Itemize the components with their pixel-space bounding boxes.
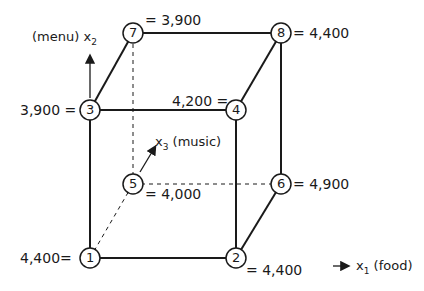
node-7-number: 7	[129, 26, 137, 39]
node-8-value: = 4,400	[293, 26, 349, 40]
node-4-number: 4	[232, 103, 240, 116]
node-2-value: = 4,400	[246, 263, 302, 277]
node-5-value: = 4,000	[145, 187, 201, 201]
node-1-number: 1	[86, 251, 94, 264]
node-5-number: 5	[129, 177, 137, 190]
axis-arrows	[90, 56, 348, 266]
node-1-value: 4,400=	[20, 251, 72, 265]
node-6-value: = 4,900	[293, 177, 349, 191]
node-8-number: 8	[277, 26, 285, 39]
node-3-value: 3,900 =	[20, 103, 76, 117]
x1-axis-label: x1 (food)	[356, 259, 412, 276]
node-3-number: 3	[86, 103, 94, 116]
x3-axis-label: x3 (music)	[155, 135, 221, 152]
node-4-value: 4,200 =	[172, 94, 228, 108]
x2-axis-label: (menu) x2	[32, 30, 97, 47]
node-6-number: 6	[277, 177, 285, 190]
node-2-number: 2	[232, 251, 240, 264]
node-7-value: = 3,900	[145, 13, 201, 27]
